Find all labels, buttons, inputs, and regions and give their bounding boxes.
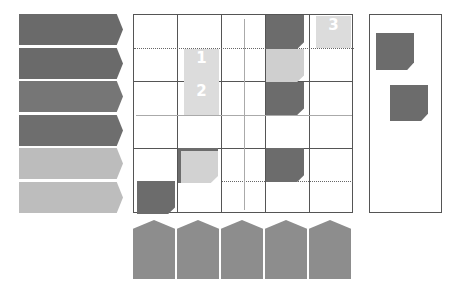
house-piece-2[interactable] <box>177 220 219 279</box>
numbered-tile-1[interactable]: 1 <box>184 49 219 82</box>
tile-number: 3 <box>328 16 338 34</box>
panel-tile-2[interactable] <box>390 85 428 121</box>
dark-tile[interactable] <box>266 15 304 49</box>
arrow-piece-3[interactable] <box>19 81 123 112</box>
arrow-piece-6[interactable] <box>19 182 123 213</box>
light-tile[interactable] <box>266 49 304 82</box>
arrow-piece-1[interactable] <box>19 14 123 45</box>
dark-tile[interactable] <box>266 148 304 182</box>
horizontal-arrow-line <box>136 115 352 116</box>
house-piece-5[interactable] <box>309 220 351 279</box>
dark-tile[interactable] <box>137 181 175 214</box>
grid-line <box>309 15 310 212</box>
game-board[interactable]: 1 2 3 <box>133 14 353 213</box>
tile-number: 1 <box>196 49 206 67</box>
dark-tile[interactable] <box>266 82 304 115</box>
side-panel[interactable] <box>369 14 442 213</box>
house-piece-4[interactable] <box>265 220 307 279</box>
arrow-piece-5[interactable] <box>19 148 123 179</box>
grid-line <box>265 15 266 212</box>
arrow-piece-2[interactable] <box>19 48 123 79</box>
arrow-piece-4[interactable] <box>19 115 123 146</box>
tile-number: 2 <box>196 82 206 100</box>
house-piece-1[interactable] <box>133 220 175 279</box>
numbered-tile-3[interactable]: 3 <box>316 16 351 48</box>
grid-line <box>221 15 222 212</box>
panel-tile-1[interactable] <box>376 33 414 70</box>
numbered-tile-2[interactable]: 2 <box>184 82 219 115</box>
house-piece-3[interactable] <box>221 220 263 279</box>
grid-line <box>134 148 352 149</box>
grid-line <box>134 81 352 82</box>
grid-line <box>177 15 178 212</box>
light-tile[interactable] <box>178 148 218 183</box>
